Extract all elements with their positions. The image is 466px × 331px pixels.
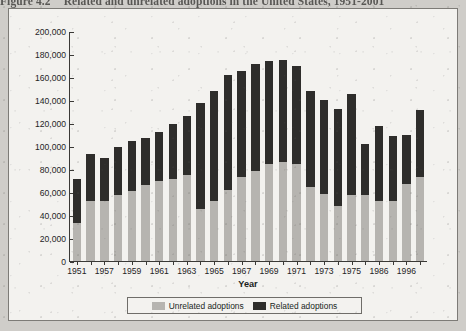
bar-slot xyxy=(125,32,139,261)
bar-segment-unrelated xyxy=(320,194,328,261)
bar-slot xyxy=(345,32,359,261)
bar-segment-unrelated xyxy=(251,171,259,261)
x-axis-tick-mark xyxy=(324,261,325,265)
bar-segment-unrelated xyxy=(224,190,232,261)
bar-segment-unrelated xyxy=(292,164,300,261)
chart-legend: Unrelated adoptions Related adoptions xyxy=(127,297,362,314)
bar-segment-unrelated xyxy=(416,177,424,261)
bar-stack xyxy=(416,32,424,261)
bar-segment-unrelated xyxy=(169,179,177,261)
x-axis-tick-mark xyxy=(365,261,366,265)
x-axis-tick-label: 1957 xyxy=(95,266,114,276)
bar-segment-unrelated xyxy=(334,206,342,261)
bar-segment-related xyxy=(320,100,328,194)
bar-segment-unrelated xyxy=(128,191,136,261)
bar-segment-related xyxy=(416,110,424,177)
x-axis-tick-mark xyxy=(283,261,284,265)
x-axis-tick-label: 1973 xyxy=(314,266,333,276)
bar-segment-unrelated xyxy=(73,223,81,261)
x-axis-tick-mark xyxy=(77,261,78,265)
bar-stack xyxy=(183,32,191,261)
y-axis-tick-label: 0 xyxy=(61,257,70,267)
bar-segment-unrelated xyxy=(402,184,410,261)
bar-segment-related xyxy=(279,60,287,162)
x-axis-tick-mark xyxy=(352,261,353,265)
bar-segment-unrelated xyxy=(141,185,149,261)
bar-slot xyxy=(358,32,372,261)
bar-slot xyxy=(221,32,235,261)
bar-segment-related xyxy=(292,66,300,165)
bar-stack xyxy=(224,32,232,261)
bar-stack xyxy=(292,32,300,261)
x-axis-tick-mark xyxy=(91,261,92,265)
x-axis-tick-label: 1986 xyxy=(369,266,388,276)
bar-segment-related xyxy=(155,132,163,180)
x-axis-tick-mark xyxy=(406,261,407,265)
bar-stack xyxy=(361,32,369,261)
bar-slot xyxy=(331,32,345,261)
bar-stack xyxy=(114,32,122,261)
bar-segment-related xyxy=(196,103,204,209)
bar-slot xyxy=(84,32,98,261)
x-axis-tick-label: 1951 xyxy=(67,266,86,276)
x-axis-tick-mark xyxy=(338,261,339,265)
bar-stack xyxy=(265,32,273,261)
bar-segment-related xyxy=(86,154,94,201)
bar-segment-unrelated xyxy=(279,162,287,261)
bar-slot xyxy=(413,32,427,261)
bar-slot xyxy=(400,32,414,261)
bar-slot xyxy=(180,32,194,261)
bar-segment-related xyxy=(224,75,232,190)
y-axis-tick-label: 200,000 xyxy=(35,27,70,37)
bar-stack xyxy=(347,32,355,261)
y-axis-tick-label: 60,000 xyxy=(40,188,70,198)
bar-slot xyxy=(152,32,166,261)
x-axis-tick-label: 1959 xyxy=(122,266,141,276)
bar-stack xyxy=(100,32,108,261)
bar-segment-unrelated xyxy=(306,187,314,261)
bar-slot xyxy=(386,32,400,261)
bar-segment-related xyxy=(73,179,81,223)
bar-slot xyxy=(290,32,304,261)
bar-stack xyxy=(155,32,163,261)
x-axis-tick-label: 1975 xyxy=(342,266,361,276)
bar-segment-unrelated xyxy=(114,195,122,261)
bar-segment-related xyxy=(347,94,355,195)
plot-area: 200,000180,000160,000140,000120,000100,0… xyxy=(69,32,427,262)
x-axis-tick-mark xyxy=(310,261,311,265)
bar-slot xyxy=(276,32,290,261)
bar-stack xyxy=(389,32,397,261)
y-axis-tick-label: 100,000 xyxy=(35,142,70,152)
bar-stack xyxy=(73,32,81,261)
legend-label-related: Related adoptions xyxy=(270,301,338,311)
bar-segment-related xyxy=(265,61,273,165)
x-axis-tick-mark xyxy=(393,261,394,265)
bar-segment-unrelated xyxy=(361,195,369,261)
x-axis-tick-label: 1996 xyxy=(397,266,416,276)
x-axis-tick-label: 1963 xyxy=(177,266,196,276)
x-axis-tick-mark xyxy=(132,261,133,265)
bar-stack xyxy=(141,32,149,261)
bar-slot xyxy=(372,32,386,261)
x-axis-tick-mark xyxy=(420,261,421,265)
y-axis-tick-label: 80,000 xyxy=(40,165,70,175)
bar-stack xyxy=(251,32,259,261)
figure-caption: Figure 4.2Related and unrelated adoption… xyxy=(0,0,466,9)
bar-slot xyxy=(70,32,84,261)
bar-segment-unrelated xyxy=(183,175,191,261)
bar-segment-unrelated xyxy=(155,181,163,262)
x-axis-tick-mark xyxy=(146,261,147,265)
x-axis-tick-mark xyxy=(242,261,243,265)
bar-stack xyxy=(169,32,177,261)
bar-slot xyxy=(111,32,125,261)
x-axis-tick-label: 1965 xyxy=(205,266,224,276)
legend-item-related: Related adoptions xyxy=(253,301,338,311)
bar-stack xyxy=(196,32,204,261)
x-axis-tick-label: 1961 xyxy=(150,266,169,276)
bar-segment-unrelated xyxy=(100,201,108,261)
bar-segment-related xyxy=(251,64,259,171)
bar-stack xyxy=(210,32,218,261)
bar-stack xyxy=(375,32,383,261)
bar-stack xyxy=(128,32,136,261)
bar-stack xyxy=(237,32,245,261)
